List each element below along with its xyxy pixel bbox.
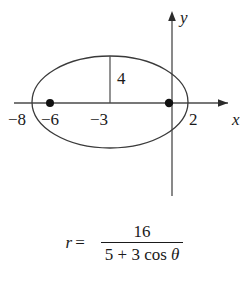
denominator-expression: 5 + 3 cos [105, 245, 171, 264]
tick-label-minus-8: −8 [8, 110, 26, 129]
y-axis-arrow-icon [168, 11, 176, 21]
tick-label-2: 2 [189, 110, 198, 129]
equals-sign: = [75, 233, 85, 253]
tick-label-minus-3: −3 [90, 110, 108, 129]
fraction-numerator: 16 [128, 222, 157, 242]
x-axis-label: x [231, 110, 240, 129]
theta-symbol: θ [171, 245, 179, 264]
chord-length-label: 4 [117, 69, 126, 88]
x-axis-arrow-icon [218, 99, 228, 107]
focus-point-left [46, 99, 54, 107]
equation-fraction: 16 5 + 3 cos θ [101, 222, 184, 264]
focus-point-right [165, 99, 173, 107]
equation-variable: r [66, 233, 73, 253]
polar-equation: r = 16 5 + 3 cos θ [0, 222, 249, 264]
fraction-denominator: 5 + 3 cos θ [101, 243, 184, 264]
tick-label-minus-6: −6 [41, 110, 59, 129]
y-axis-label: y [178, 8, 188, 27]
